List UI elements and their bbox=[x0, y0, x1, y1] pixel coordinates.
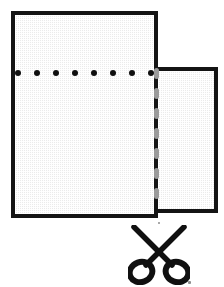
perforation-dash bbox=[154, 68, 159, 79]
punched-hole bbox=[53, 70, 59, 76]
punched-hole bbox=[91, 70, 97, 76]
punched-hole bbox=[129, 70, 135, 76]
perforation-line bbox=[154, 68, 159, 220]
punched-hole bbox=[34, 70, 40, 76]
scan-speck-upper bbox=[158, 222, 160, 224]
scissors-icon bbox=[128, 225, 190, 285]
perforation-dash bbox=[154, 88, 159, 99]
perforation-dash bbox=[154, 128, 159, 139]
perforation-dash bbox=[154, 188, 159, 199]
punched-hole bbox=[72, 70, 78, 76]
perforation-dash bbox=[154, 148, 159, 159]
tear-off-sheet bbox=[158, 67, 218, 213]
punched-hole bbox=[15, 70, 21, 76]
punched-hole bbox=[110, 70, 116, 76]
perforation-dash bbox=[154, 108, 159, 119]
scan-speck-lower-right bbox=[188, 281, 191, 284]
punched-hole-row bbox=[15, 69, 154, 78]
main-sheet bbox=[11, 11, 158, 218]
diagram-canvas bbox=[0, 0, 224, 287]
perforation-dash bbox=[154, 168, 159, 179]
